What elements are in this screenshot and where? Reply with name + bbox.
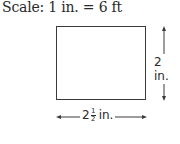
height-label: 2 in. [154, 54, 180, 84]
width-whole: 2 [82, 108, 90, 122]
fraction-denominator: 2 [91, 116, 95, 123]
width-unit: in. [99, 108, 114, 122]
fraction-numerator: 1 [91, 108, 95, 115]
width-label: 2 1 2 in. [80, 108, 115, 123]
width-fraction: 1 2 [91, 108, 96, 123]
